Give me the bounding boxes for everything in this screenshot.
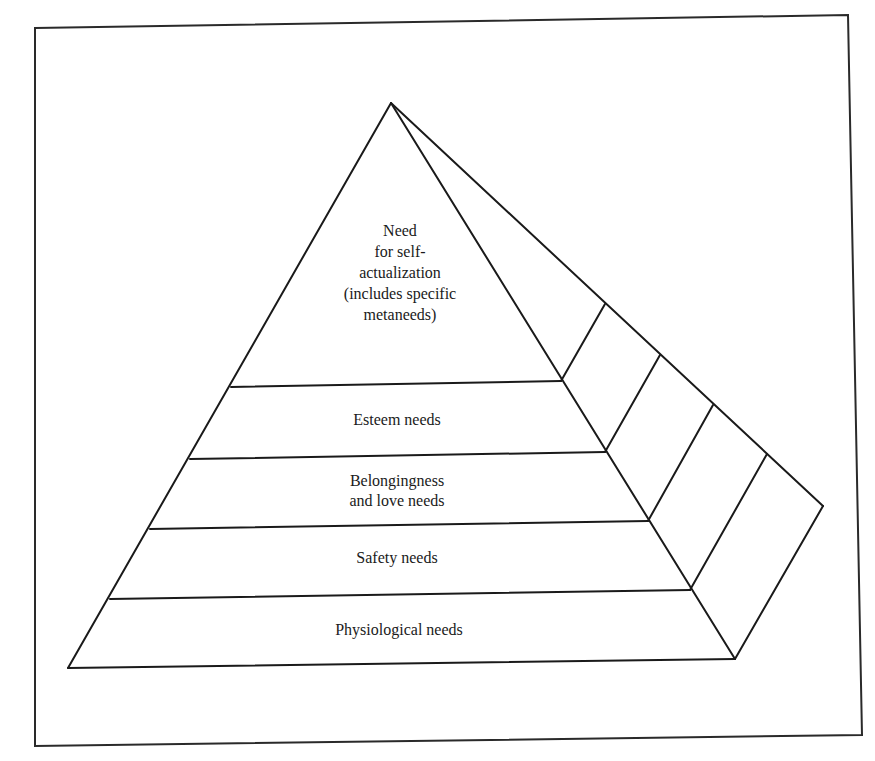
pyramid-diagram: Need for self- actualization (includes s…: [0, 0, 875, 761]
label-line: Belongingness: [350, 472, 444, 490]
label-line: for self-: [374, 243, 425, 260]
divider-esteem-belonging: [190, 452, 605, 459]
pyramid-side-face: [391, 103, 823, 659]
divider-belonging-safety: [150, 521, 648, 529]
level-safety: Safety needs: [356, 549, 437, 567]
level-belongingness: Belongingness and love needs: [349, 472, 444, 509]
divider-self-esteem: [231, 381, 561, 387]
level-self-actualization: Need for self- actualization (includes s…: [344, 222, 456, 324]
label-line: and love needs: [349, 492, 444, 509]
label-line: (includes specific: [344, 285, 456, 303]
label-line: metaneeds): [364, 306, 437, 324]
level-physiological: Physiological needs: [335, 621, 463, 639]
label-line: Physiological needs: [335, 621, 463, 639]
label-line: actualization: [359, 264, 441, 281]
level-esteem: Esteem needs: [353, 411, 441, 428]
label-line: Esteem needs: [353, 411, 441, 428]
divider-safety-physiological: [110, 590, 690, 599]
label-line: Need: [383, 222, 417, 239]
label-line: Safety needs: [356, 549, 437, 567]
pyramid-front-face: [68, 103, 735, 668]
